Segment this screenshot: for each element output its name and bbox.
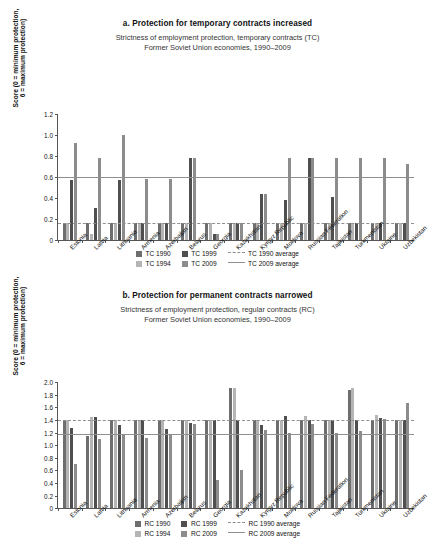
bar [311,424,314,508]
x-axis-label-cell: Georgia [200,512,224,513]
bar [145,179,148,240]
bar [110,420,113,508]
y-tick-label-b-6: 1.2 [44,429,53,436]
x-tick [58,508,59,511]
x-axis-label-cell: Turkmenistan [343,512,367,513]
x-axis-label-cell: Latvia [81,512,105,513]
y-tick-label-b-4: 0.8 [44,454,53,461]
panel-a: a. Protection for temporary contracts in… [0,0,435,276]
bar [355,223,358,240]
x-axis-label-cell: Belarus [176,244,200,245]
bar [161,420,164,508]
bar [216,480,219,508]
bar [74,464,77,508]
bar-group [390,382,414,508]
bar [213,420,216,508]
legend-label: RC 1999 [191,520,217,527]
panel-a-plot: 00.20.40.60.81.01.2 [57,114,414,241]
legend-label: TC 2009 average [248,260,299,267]
x-axis-label-cell: Moldova [271,512,295,513]
bar [66,223,69,240]
bar [94,417,97,508]
x-axis-label-cell: Belarus [176,512,200,513]
y-tick-a-5 [55,135,58,136]
bar [383,158,386,240]
bar [311,158,314,240]
legend-line-icon [228,522,245,523]
panel-a-titles: a. Protection for temporary contracts in… [0,0,435,52]
y-tick-label-a-0: 0 [49,237,53,244]
legend-line-icon [228,532,245,533]
legend-line-icon [228,252,245,253]
legend-swatch-icon [181,531,187,537]
bar [70,180,73,240]
bar [90,417,93,508]
bar [288,158,291,240]
y-tick-label-a-3: 0.6 [44,174,53,181]
panel-b-titles: b. Protection for permanent contracts na… [0,276,435,324]
panel-a-subtitle-line2: Former Soviet Union economies, 1990–2009 [0,43,435,53]
x-axis-label-cell: Uzbekistan [390,244,414,245]
y-tick-label-b-5: 1.0 [44,442,53,449]
panel-a-title: a. Protection for temporary contracts in… [0,18,435,29]
bar [403,420,406,508]
panel-b-bar-groups [58,382,414,508]
x-axis-label-cell: Lithuania [105,244,129,245]
y-tick-b-10 [55,382,58,383]
legend-swatch-icon [136,251,142,257]
average-line-b-0 [58,420,414,421]
bar [110,223,113,240]
bar [169,179,172,240]
bar-group [295,382,319,508]
bar [209,223,212,240]
y-tick-b-6 [55,433,58,434]
y-tick-label-b-8: 1.6 [44,404,53,411]
bar [209,420,212,508]
panel-b-plot: 00.20.40.60.81.01.21.41.61.82.0 [57,382,414,509]
bar [288,433,291,509]
legend-item-series: TC 1994 [136,260,171,267]
y-tick-label-b-0: 0 [49,505,53,512]
x-axis-label-cell: Russian Federation [295,512,319,513]
y-tick-b-4 [55,458,58,459]
legend-swatch-icon [182,261,188,267]
legend-label: RC 2009 [191,530,217,537]
bar [236,223,239,240]
y-tick-label-b-1: 0.2 [44,492,53,499]
x-axis-label-cell: Lithuania [105,512,129,513]
bar-group [105,382,129,508]
legend-item-series: RC 1994 [135,530,171,537]
bar [114,420,117,508]
x-axis-label-cell: Georgia [200,244,224,245]
bar [213,234,216,240]
legend-row: TC 1994TC 2009TC 2009 average [136,260,299,267]
bar [233,388,236,508]
legend-label: TC 2009 [191,260,216,267]
y-tick-b-1 [55,496,58,497]
bar [189,158,192,240]
legend-swatch-icon [182,251,188,257]
x-axis-label-cell: Turkmenistan [343,244,367,245]
bar [158,420,161,508]
x-axis-label-cell: Armenia [128,512,152,513]
average-line-b-1 [58,434,414,435]
bar [351,388,354,508]
bar [304,223,307,240]
y-tick-a-2 [55,198,58,199]
panel-a-legend: TC 1990TC 1999TC 1990 averageTC 1994TC 2… [0,250,435,267]
bar [86,223,89,240]
legend-item-series: TC 1990 [136,250,171,257]
bar [229,388,232,508]
legend-label: TC 1999 [191,250,216,257]
bar [264,194,267,240]
x-axis-label-cell: Latvia [81,244,105,245]
bar [98,439,101,508]
y-tick-label-b-3: 0.6 [44,467,53,474]
bar [134,420,137,508]
legend-label: TC 1990 [145,250,170,257]
bar [66,420,69,508]
bar-group [224,382,248,508]
legend-label: RC 1994 [144,530,170,537]
y-tick-label-b-2: 0.4 [44,479,53,486]
bar [193,424,196,508]
